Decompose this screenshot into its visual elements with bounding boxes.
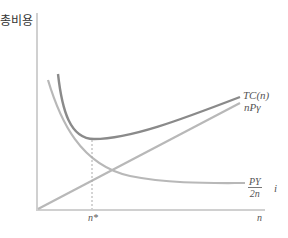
frac-numerator: PY xyxy=(248,176,262,188)
holding-cost-label: PY 2n xyxy=(248,176,262,199)
cost-chart xyxy=(0,0,288,238)
x-axis-label: n xyxy=(257,212,262,223)
tc-curve xyxy=(58,74,240,139)
frac-denominator: 2n xyxy=(248,188,262,199)
y-axis-label: 총비용 xyxy=(0,11,33,28)
frac-suffix: i xyxy=(274,182,277,194)
npy-label: nPγ xyxy=(244,101,261,113)
n-star-label: n* xyxy=(88,212,98,223)
tc-label: TC(n) xyxy=(243,89,269,101)
